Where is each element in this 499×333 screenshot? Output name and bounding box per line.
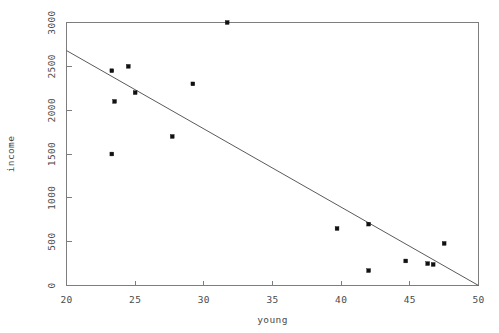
data-point (126, 64, 130, 68)
y-tick-label: 1000 (46, 186, 57, 210)
x-tick-label: 20 (60, 294, 72, 305)
data-point (431, 263, 435, 267)
x-axis-title: young (257, 314, 288, 325)
data-point-marker (170, 135, 174, 139)
data-points (110, 21, 446, 273)
x-tick-label: 40 (335, 294, 347, 305)
x-axis-ticks (67, 281, 479, 286)
scatter-plot-figure: 20253035404550 050010001500200025003000 … (0, 0, 499, 333)
data-point (110, 152, 114, 156)
data-point (335, 227, 339, 231)
y-axis-title: income (5, 136, 16, 173)
y-axis-ticks (67, 23, 72, 286)
data-point (191, 82, 195, 86)
data-point-marker (110, 152, 114, 156)
data-point-marker (126, 64, 130, 68)
data-point (367, 222, 371, 226)
data-point-marker (110, 69, 114, 73)
data-point-marker (225, 21, 229, 25)
data-point (426, 262, 430, 266)
data-point (404, 259, 408, 263)
data-point (442, 242, 446, 246)
data-point-marker (113, 100, 117, 104)
y-tick-label: 2000 (46, 98, 57, 122)
plot-frame-rect (67, 23, 479, 286)
plot-canvas: 20253035404550 050010001500200025003000 … (0, 0, 499, 333)
y-axis-tick-labels: 050010001500200025003000 (46, 10, 57, 288)
data-point-marker (367, 222, 371, 226)
data-point-marker (442, 242, 446, 246)
data-point-marker (404, 259, 408, 263)
x-tick-label: 30 (198, 294, 210, 305)
data-point-marker (367, 269, 371, 273)
x-tick-label: 35 (266, 294, 278, 305)
data-point (110, 69, 114, 73)
x-axis-tick-labels: 20253035404550 (60, 294, 484, 305)
regression-line (67, 51, 479, 286)
y-tick-label: 1500 (46, 142, 57, 166)
x-tick-label: 25 (129, 294, 141, 305)
data-point-marker (426, 262, 430, 266)
y-tick-label: 2500 (46, 54, 57, 78)
data-point (133, 91, 137, 95)
y-tick-label: 0 (46, 282, 57, 288)
y-tick-label: 500 (46, 232, 57, 250)
data-point (225, 21, 229, 25)
plot-frame (67, 23, 479, 286)
data-point (170, 135, 174, 139)
data-point-marker (133, 91, 137, 95)
data-point-marker (431, 263, 435, 267)
regression-line-group (67, 51, 479, 286)
x-tick-label: 50 (472, 294, 484, 305)
data-point (367, 269, 371, 273)
data-point-marker (335, 227, 339, 231)
x-tick-label: 45 (404, 294, 416, 305)
data-point-marker (191, 82, 195, 86)
data-point (113, 100, 117, 104)
y-tick-label: 3000 (46, 10, 57, 34)
